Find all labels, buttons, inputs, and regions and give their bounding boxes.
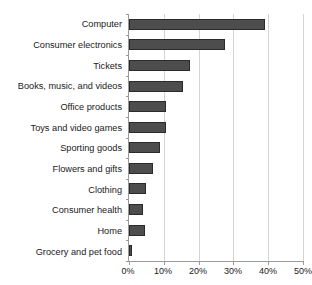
gridline bbox=[303, 14, 304, 261]
bar bbox=[129, 101, 166, 112]
category-label: Computer bbox=[0, 14, 126, 35]
category-label: Toys and video games bbox=[0, 117, 126, 138]
category-label: Tickets bbox=[0, 55, 126, 76]
value-axis-label: 40% bbox=[259, 266, 277, 277]
bar-row bbox=[129, 55, 303, 76]
bar bbox=[129, 183, 146, 194]
category-label: Clothing bbox=[0, 179, 126, 200]
value-axis-tick bbox=[199, 261, 200, 265]
bar bbox=[129, 204, 143, 215]
bar-row bbox=[129, 14, 303, 35]
bar-row bbox=[129, 199, 303, 220]
category-label: Grocery and pet food bbox=[0, 241, 126, 262]
bar-row bbox=[129, 137, 303, 158]
value-axis-tick bbox=[129, 261, 130, 265]
category-label: Sporting goods bbox=[0, 138, 126, 159]
bar bbox=[129, 122, 166, 133]
value-axis-labels: 0%10%20%30%40%50% bbox=[128, 266, 303, 280]
category-label: Flowers and gifts bbox=[0, 159, 126, 180]
bar-row bbox=[129, 96, 303, 117]
bar bbox=[129, 39, 225, 50]
value-axis-label: 10% bbox=[154, 266, 172, 277]
bar bbox=[129, 245, 132, 256]
bar-row bbox=[129, 179, 303, 200]
category-label: Consumer electronics bbox=[0, 35, 126, 56]
value-axis-tick bbox=[233, 261, 234, 265]
category-label: Office products bbox=[0, 97, 126, 118]
value-axis-tick bbox=[268, 261, 269, 265]
bar-row bbox=[129, 35, 303, 56]
value-axis-label: 50% bbox=[294, 266, 312, 277]
plot-area bbox=[128, 14, 303, 262]
bar-chart: Computer Consumer electronics Tickets Bo… bbox=[0, 0, 312, 285]
category-label: Consumer health bbox=[0, 200, 126, 221]
bar-row bbox=[129, 220, 303, 241]
value-axis-label: 30% bbox=[224, 266, 242, 277]
bar bbox=[129, 163, 153, 174]
value-axis-tick bbox=[303, 261, 304, 265]
category-label: Books, music, and videos bbox=[0, 76, 126, 97]
value-axis-label: 0% bbox=[121, 266, 134, 277]
bar bbox=[129, 142, 160, 153]
bar-row bbox=[129, 240, 303, 261]
bar bbox=[129, 81, 183, 92]
bar-row bbox=[129, 76, 303, 97]
bar bbox=[129, 60, 190, 71]
value-axis-label: 20% bbox=[189, 266, 207, 277]
bar bbox=[129, 225, 145, 236]
category-axis-labels: Computer Consumer electronics Tickets Bo… bbox=[0, 14, 126, 262]
bar-series bbox=[129, 14, 303, 261]
category-label: Home bbox=[0, 221, 126, 242]
bar-row bbox=[129, 117, 303, 138]
value-axis-tick bbox=[164, 261, 165, 265]
bar-row bbox=[129, 158, 303, 179]
bar bbox=[129, 19, 265, 30]
